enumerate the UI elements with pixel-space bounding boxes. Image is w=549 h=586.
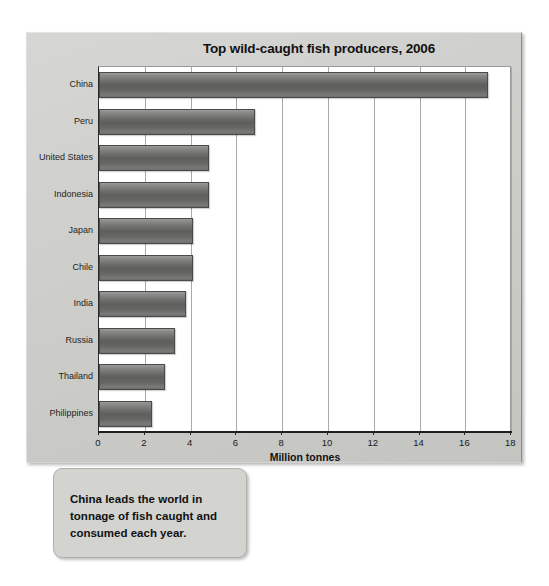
chart-title: Top wild-caught fish producers, 2006 <box>125 41 513 56</box>
x-tick-label-10: 10 <box>322 437 333 448</box>
category-label-russia: Russia <box>65 322 93 358</box>
x-tick-label-14: 14 <box>413 437 424 448</box>
category-label-united-states: United States <box>39 139 93 175</box>
x-tick-16 <box>464 431 465 435</box>
x-tick-4 <box>190 431 191 435</box>
bar-china <box>99 72 488 98</box>
caption-box: China leads the world in tonnage of fish… <box>53 468 247 558</box>
x-tick-2 <box>144 431 145 435</box>
x-tick-8 <box>281 431 282 435</box>
category-label-japan: Japan <box>68 212 93 248</box>
bar-row <box>99 140 512 176</box>
bar-japan <box>99 218 193 244</box>
bar-chile <box>99 255 193 281</box>
bar-thailand <box>99 364 165 390</box>
x-tick-label-16: 16 <box>459 437 470 448</box>
bar-philippines <box>99 401 152 427</box>
x-tick-label-12: 12 <box>368 437 379 448</box>
bar-peru <box>99 109 255 135</box>
x-tick-label-0: 0 <box>95 437 100 448</box>
category-label-philippines: Philippines <box>49 395 93 431</box>
category-label-chile: Chile <box>72 249 93 285</box>
x-axis-line <box>98 431 512 433</box>
category-label-india: India <box>73 285 93 321</box>
x-tick-label-2: 2 <box>141 437 146 448</box>
category-label-thailand: Thailand <box>58 358 93 394</box>
bar-indonesia <box>99 182 209 208</box>
bar-row <box>99 177 512 213</box>
bar-row <box>99 396 512 432</box>
x-tick-12 <box>373 431 374 435</box>
chart-panel: Top wild-caught fish producers, 2006 Chi… <box>26 32 522 463</box>
bar-row <box>99 250 512 286</box>
bar-row <box>99 104 512 140</box>
x-tick-label-8: 8 <box>279 437 284 448</box>
category-label-china: China <box>69 66 93 102</box>
x-tick-6 <box>235 431 236 435</box>
category-label-peru: Peru <box>74 103 93 139</box>
caption-text: China leads the world in tonnage of fish… <box>70 491 230 542</box>
bar-row <box>99 359 512 395</box>
bar-india <box>99 291 186 317</box>
x-axis-title: Million tonnes <box>98 451 512 463</box>
x-tick-0 <box>98 431 99 435</box>
x-tick-10 <box>327 431 328 435</box>
x-tick-18 <box>510 431 511 435</box>
bar-row <box>99 323 512 359</box>
x-tick-label-6: 6 <box>233 437 238 448</box>
x-tick-label-18: 18 <box>505 437 516 448</box>
category-label-indonesia: Indonesia <box>54 176 93 212</box>
plot-area <box>98 66 511 431</box>
bar-united-states <box>99 145 209 171</box>
bar-row <box>99 67 512 103</box>
bar-russia <box>99 328 175 354</box>
bar-row <box>99 213 512 249</box>
x-tick-label-4: 4 <box>187 437 192 448</box>
x-tick-14 <box>419 431 420 435</box>
category-axis-labels: ChinaPeruUnited StatesIndonesiaJapanChil… <box>27 66 93 431</box>
bar-row <box>99 286 512 322</box>
